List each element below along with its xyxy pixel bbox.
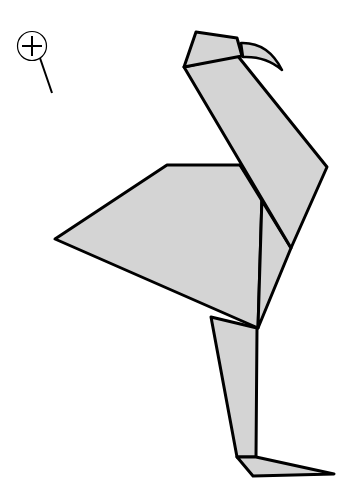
flamingo-leg (211, 317, 257, 457)
flamingo-body (55, 165, 262, 328)
flamingo-foot (237, 457, 334, 476)
origami-flamingo-illustration (0, 0, 356, 497)
